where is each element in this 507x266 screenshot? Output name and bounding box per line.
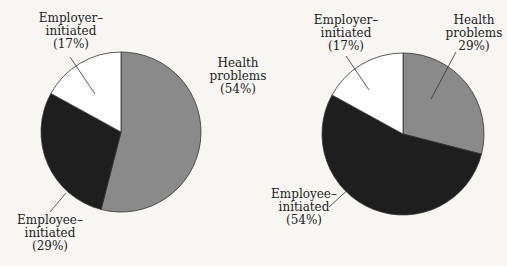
label-line: 29%)	[444, 40, 504, 53]
label-line: (54%)	[268, 214, 340, 227]
label-left-employee: Employee– initiated (29%)	[14, 214, 86, 253]
right-pie	[322, 52, 484, 215]
label-left-employer: Employer– initiated (17%)	[36, 12, 106, 51]
label-right-employee: Employee– initiated (54%)	[268, 188, 340, 227]
label-line: (17%)	[36, 38, 106, 51]
label-line: (17%)	[311, 40, 381, 53]
label-line: (29%)	[14, 240, 86, 253]
label-left-health: Health problems (54%)	[208, 57, 268, 96]
label-right-employer: Employer– initiated (17%)	[311, 14, 381, 53]
label-line: (54%)	[208, 83, 268, 96]
left-pie	[41, 52, 201, 212]
label-right-health: Health problems 29%)	[444, 14, 504, 53]
